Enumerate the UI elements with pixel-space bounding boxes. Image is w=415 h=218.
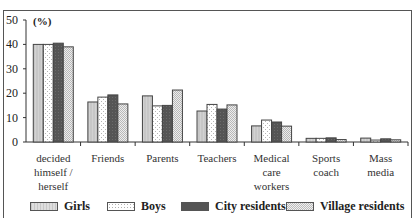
legend-label: Village residents [320, 199, 404, 214]
legend-item-city-residents: City residents [181, 199, 286, 214]
legend-item-village-residents: Village residents [286, 199, 404, 214]
legend-item-boys: Boys [107, 199, 166, 214]
bar-girls [33, 44, 43, 142]
bar-village-residents [63, 47, 73, 142]
bar-city-residents [217, 109, 227, 142]
bar-boys [207, 104, 217, 142]
legend-swatch [30, 202, 58, 211]
category-label: himself / [34, 166, 74, 178]
bar-boys [152, 106, 162, 142]
bar-city-residents [108, 95, 118, 142]
bar-boys [43, 44, 53, 142]
category-label: Friends [91, 152, 124, 164]
bar-chart: 01020304050(%) decidedhimself /herselfFr… [0, 0, 415, 200]
category-label: herself [38, 180, 68, 192]
bar-boys [262, 120, 272, 142]
y-tick-label: 10 [6, 111, 18, 125]
legend-swatch [286, 202, 314, 211]
category-label: Medical [254, 152, 290, 164]
bar-boys [316, 138, 326, 142]
y-tick-label: 50 [6, 13, 18, 27]
bar-village-residents [118, 104, 128, 142]
category-label: workers [254, 180, 289, 192]
category-label: coach [313, 166, 339, 178]
y-unit-label: (%) [33, 15, 52, 28]
legend-item-girls: Girls [30, 199, 90, 214]
bar-girls [88, 102, 98, 142]
category-label: Mass [369, 152, 392, 164]
bar-girls [306, 138, 316, 142]
bar-boys [371, 140, 381, 142]
category-label: care [262, 166, 280, 178]
legend-swatch [181, 202, 209, 211]
bar-city-residents [272, 122, 282, 142]
bar-city-residents [381, 139, 391, 142]
y-tick-label: 0 [12, 135, 18, 149]
bar-village-residents [282, 126, 292, 142]
y-tick-label: 30 [6, 62, 18, 76]
bar-girls [197, 111, 207, 142]
bar-girls [361, 138, 371, 142]
y-tick-label: 20 [6, 86, 18, 100]
bar-boys [98, 97, 108, 142]
y-tick-label: 40 [6, 37, 18, 51]
bar-village-residents [391, 140, 401, 142]
bar-girls [252, 126, 262, 142]
bars [33, 43, 400, 142]
category-label: Sports [312, 152, 340, 164]
bar-village-residents [172, 90, 182, 142]
bar-village-residents [336, 140, 346, 142]
legend-label: Boys [141, 199, 166, 214]
category-label: decided [36, 152, 71, 164]
category-labels: decidedhimself /herselfFriendsParentsTea… [34, 152, 394, 192]
bar-city-residents [162, 105, 172, 142]
legend-label: Girls [64, 199, 90, 214]
bar-city-residents [326, 138, 336, 142]
category-label: Teachers [198, 152, 237, 164]
legend-swatch [107, 202, 135, 211]
bar-village-residents [227, 105, 237, 142]
legend-label: City residents [215, 199, 286, 214]
legend: GirlsBoysCity residentsVillage residents [0, 199, 415, 217]
category-label: Parents [146, 152, 178, 164]
bar-girls [142, 96, 152, 142]
bar-city-residents [53, 43, 63, 142]
category-label: media [367, 166, 394, 178]
